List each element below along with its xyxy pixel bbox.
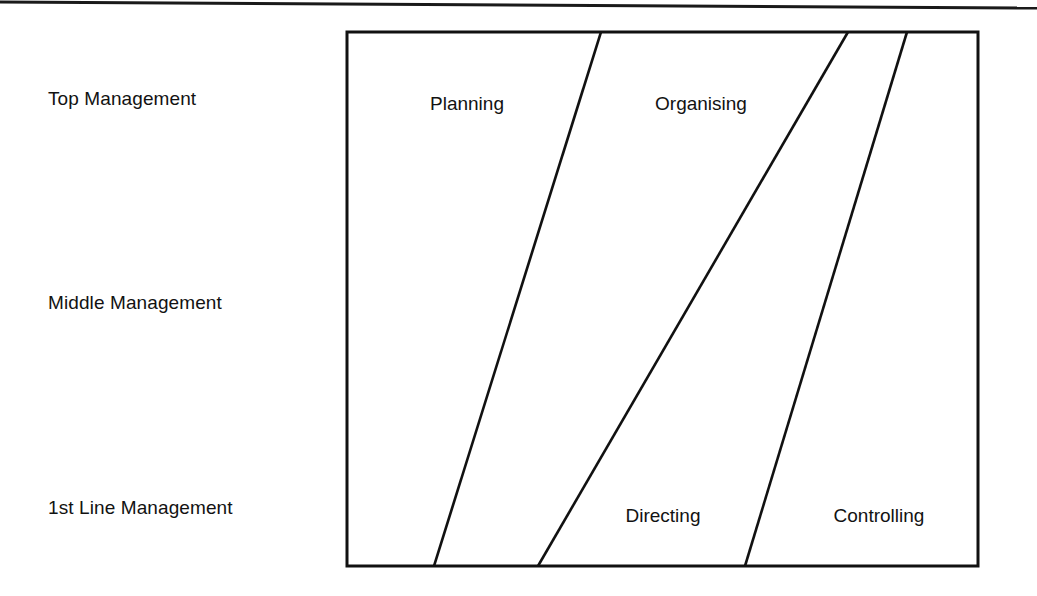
function-label-organising: Organising bbox=[655, 94, 747, 113]
directing-controlling-divider bbox=[745, 32, 907, 566]
function-label-controlling: Controlling bbox=[834, 506, 925, 525]
function-label-planning: Planning bbox=[430, 94, 504, 113]
function-label-directing: Directing bbox=[626, 506, 701, 525]
diagram-page: Top Management Middle Management 1st Lin… bbox=[0, 0, 1037, 596]
